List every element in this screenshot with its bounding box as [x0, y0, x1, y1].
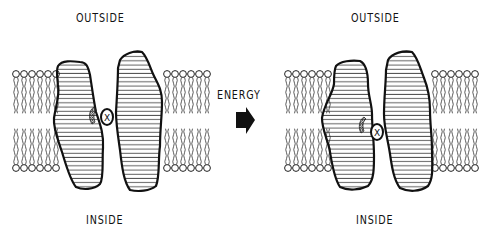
lipid-bilayer-left	[13, 71, 60, 172]
inside-label-after: INSIDE	[356, 212, 393, 227]
energy-label: ENERGY	[217, 87, 261, 102]
svg-text:X: X	[374, 128, 380, 138]
membrane-transport-diagram: X X OUTSIDE	[0, 0, 490, 240]
panel-before: X	[13, 51, 211, 190]
lipid-bilayer-right	[164, 71, 211, 172]
energy-arrow-icon	[236, 107, 255, 134]
substrate-x-icon: X	[101, 109, 113, 125]
protein-subunit-left	[54, 61, 103, 189]
substrate-x-icon: X	[371, 124, 383, 140]
protein-subunit-right	[384, 51, 432, 190]
outside-label-before: OUTSIDE	[76, 10, 125, 25]
svg-text:X: X	[104, 113, 110, 123]
diagram-artwork: X X	[0, 0, 490, 240]
lipid-bilayer-right	[432, 71, 479, 172]
outside-label-after: OUTSIDE	[351, 10, 400, 25]
inside-label-before: INSIDE	[86, 212, 123, 227]
protein-subunit-right	[116, 51, 162, 190]
panel-after: X	[285, 51, 479, 190]
